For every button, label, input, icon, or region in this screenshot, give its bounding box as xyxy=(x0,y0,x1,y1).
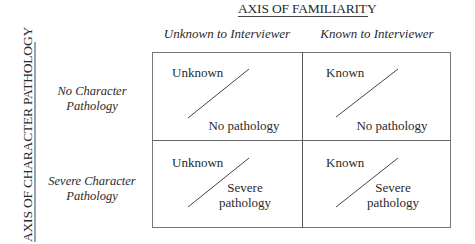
cell-unknown-severe-pathology-bottom-label: Severe pathology xyxy=(210,180,280,210)
cell-sub-line: pathology xyxy=(358,195,428,210)
cell-sub-line: Severe xyxy=(210,180,280,195)
cell-known-severe-pathology-top-label: Known xyxy=(326,155,364,170)
cell-known-no-pathology-bottom-label: No pathology xyxy=(352,118,432,133)
cell-sub-line: pathology xyxy=(210,195,280,210)
cell-unknown-severe-pathology-top-label: Unknown xyxy=(172,155,223,170)
cell-unknown-no-pathology-top-label: Unknown xyxy=(172,65,223,80)
cell-known-no-pathology-top-label: Known xyxy=(326,65,364,80)
cell-unknown-no-pathology-bottom-label: No pathology xyxy=(204,118,284,133)
cell-known-severe-pathology-bottom-label: Severe pathology xyxy=(358,180,428,210)
cell-sub-line: Severe xyxy=(358,180,428,195)
